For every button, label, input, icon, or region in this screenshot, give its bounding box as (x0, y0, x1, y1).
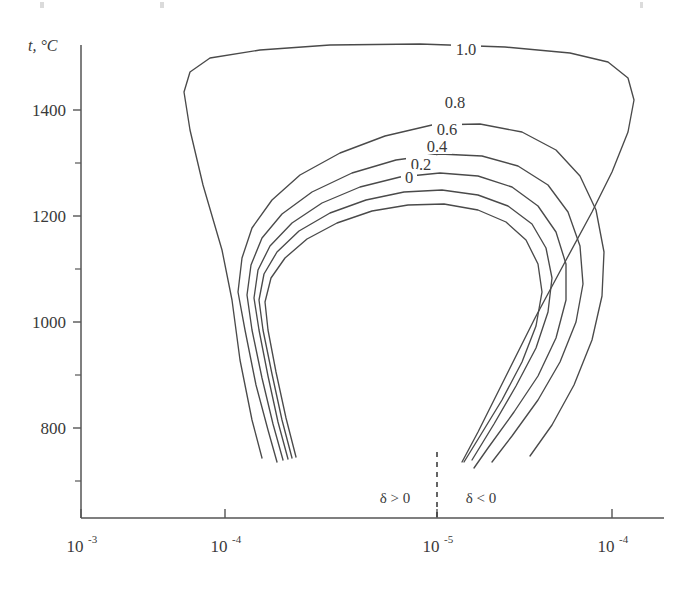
contour-labels-group: 1.0 0.8 0.6 0.4 0.2 0 (401, 40, 481, 187)
x-tick-label-4-exponent: -4 (619, 533, 629, 545)
contour-curve-0.4 (254, 173, 566, 468)
contour-label-0: 0 (405, 168, 413, 187)
contour-label-1.0: 1.0 (456, 40, 477, 59)
y-tick-label-1200: 1200 (32, 207, 66, 226)
x-tick-label-4-base: 10 (598, 537, 615, 556)
page-bleed-artifacts (40, 2, 643, 8)
contour-curves-group (184, 44, 634, 468)
x-tick-label-1: 10 -3 (67, 533, 98, 556)
x-tick-label-4: 10 -4 (598, 533, 629, 556)
contour-curve-0 (265, 204, 542, 462)
contour-label-0.8: 0.8 (445, 93, 466, 112)
y-axis-title: t, °C (28, 37, 58, 54)
x-tick-label-1-exponent: -3 (88, 533, 98, 545)
x-tick-label-2-exponent: -4 (232, 533, 242, 545)
y-tick-label-1400: 1400 (32, 101, 66, 120)
x-tick-label-3-base: 10 (423, 537, 440, 556)
x-tick-label-2-base: 10 (211, 537, 228, 556)
x-tick-label-3: 10 -5 (423, 533, 454, 556)
contour-label-0.4: 0.4 (427, 137, 448, 156)
x-tick-label-3-exponent: -5 (444, 533, 454, 545)
axes-group (73, 45, 664, 518)
contour-curve-0.6 (247, 154, 583, 462)
y-tick-label-800: 800 (41, 419, 67, 438)
delta-positive-label: δ > 0 (380, 490, 411, 506)
x-tick-label-2: 10 -4 (211, 533, 242, 556)
x-tick-label-1-base: 10 (67, 537, 84, 556)
y-tick-label-1000: 1000 (32, 313, 66, 332)
delta-negative-label: δ < 0 (466, 490, 497, 506)
contour-plot-figure: t, °C 1400 1200 1000 800 10 -3 10 -4 10 … (0, 0, 680, 589)
